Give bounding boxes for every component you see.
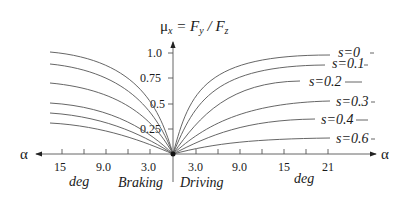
- origin-point: [171, 152, 176, 157]
- series-labels: s=0 s=0.1 s=0.2 s=0.3 s=0.4 s=0.6: [309, 45, 375, 146]
- x-tick-right-9: 9.0: [232, 160, 247, 174]
- x-tick-right-15: 15: [278, 160, 290, 174]
- label-s01: s=0.1: [332, 56, 364, 71]
- x-ticks-right: [196, 149, 328, 154]
- label-s06: s=0.6: [336, 131, 368, 146]
- x-tick-right-3: 3.0: [188, 160, 203, 174]
- y-ticks: [168, 53, 173, 129]
- alpha-label-left: α: [20, 146, 28, 162]
- x-tick-left-9: 9.0: [96, 160, 111, 174]
- y-tick-1.0: 1.0: [147, 46, 162, 60]
- label-s02: s=0.2: [309, 74, 341, 89]
- deg-label-right: deg: [294, 171, 314, 186]
- x-ticks-left: [62, 149, 150, 154]
- driving-curves: [173, 55, 330, 154]
- driving-label: Driving: [179, 175, 224, 190]
- x-tick-right-21: 21: [322, 160, 334, 174]
- y-axis-title: μx = Fy / Fz: [160, 18, 229, 36]
- label-s03: s=0.3: [336, 94, 368, 109]
- x-tick-left-3: 3.0: [141, 160, 156, 174]
- deg-label-left: deg: [69, 174, 89, 189]
- friction-coefficient-chart: 1.0 0.75 0.5 0.25 α α 15 9.0 3.0 3.0 9.0…: [0, 0, 410, 197]
- braking-label: Braking: [118, 175, 163, 190]
- x-tick-left-15: 15: [54, 160, 66, 174]
- label-s04: s=0.4: [321, 112, 353, 127]
- y-tick-0.75: 0.75: [140, 71, 161, 85]
- alpha-label-right: α: [381, 146, 389, 162]
